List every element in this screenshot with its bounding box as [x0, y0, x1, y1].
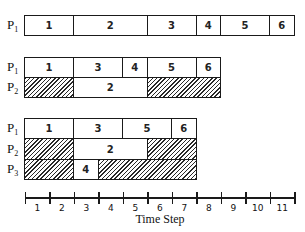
idle-block	[24, 159, 74, 180]
task-block: 6	[196, 57, 222, 78]
idle-block	[147, 77, 222, 98]
axis-tick-label: 2	[50, 203, 74, 213]
axis-tick-label: 3	[74, 203, 98, 213]
axis-tick-label: 1	[25, 203, 49, 213]
task-block: 5	[220, 15, 270, 36]
task-block: 3	[147, 15, 197, 36]
axis-tick-label: 10	[246, 203, 270, 213]
task-block: 1	[24, 15, 74, 36]
task-block: 1	[24, 118, 74, 139]
task-block: 4	[196, 15, 222, 36]
processor-label: P2	[7, 80, 18, 96]
task-block: 6	[269, 15, 295, 36]
x-axis-label: Time Step	[125, 212, 195, 227]
processor-label: P1	[7, 60, 18, 76]
idle-block	[147, 138, 197, 160]
processor-label: P2	[7, 142, 18, 158]
processor-label: P3	[7, 162, 18, 178]
idle-block	[24, 138, 74, 160]
idle-block	[24, 77, 74, 98]
task-block: 3	[73, 118, 123, 139]
axis-tick-label: 11	[270, 203, 294, 213]
task-block: 4	[122, 57, 148, 78]
idle-block	[98, 159, 197, 180]
axis-tick-label: 4	[99, 203, 123, 213]
processor-label: P1	[7, 121, 18, 137]
task-block: 3	[73, 57, 123, 78]
task-block: 1	[24, 57, 74, 78]
task-block: 6	[171, 118, 197, 139]
task-block: 4	[73, 159, 99, 180]
axis-tick-label: 9	[221, 203, 245, 213]
task-block: 5	[147, 57, 197, 78]
processor-label: P1	[7, 18, 18, 34]
task-block: 5	[122, 118, 172, 139]
axis-tick-label: 8	[197, 203, 221, 213]
task-block: 2	[73, 15, 148, 36]
task-block: 2	[73, 138, 148, 160]
time-axis	[25, 197, 295, 199]
task-block: 2	[73, 77, 148, 98]
